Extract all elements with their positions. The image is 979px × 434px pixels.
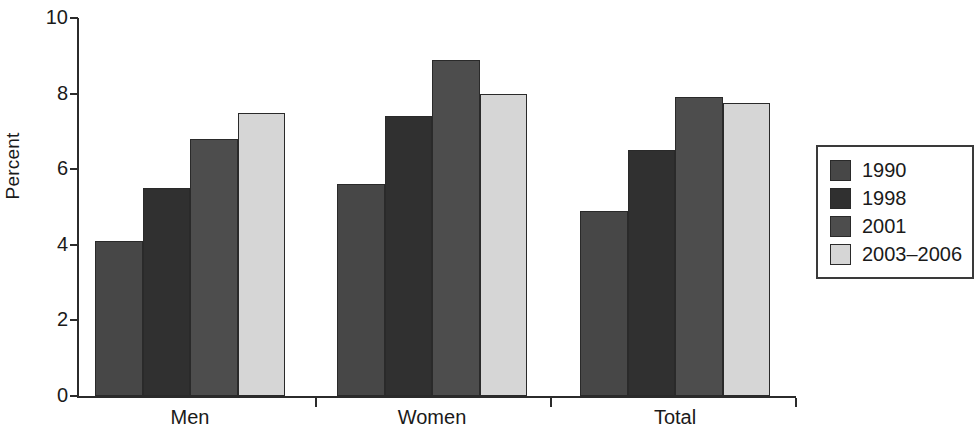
bar-men-1998 [143,188,191,396]
legend-item-2003–2006: 2003–2006 [830,240,962,268]
bar-women-1990 [337,184,385,396]
bar-women-1998 [385,116,433,396]
legend-swatch-icon-1998 [830,188,851,209]
x-group-label-men: Men [95,406,285,429]
x-group-label-total: Total [580,406,770,429]
bar-total-1998 [628,150,676,396]
legend-item-2001: 2001 [830,212,962,240]
legend-label-1990: 1990 [862,160,907,180]
bar-men-1990 [95,241,143,396]
legend-label-2001: 2001 [862,216,907,236]
bar-total-2003–2006 [723,103,771,396]
legend-label-1998: 1998 [862,188,907,208]
x-group-label-women: Women [337,406,527,429]
legend-label-2003–2006: 2003–2006 [862,244,962,264]
legend-swatch-icon-1990 [830,160,851,181]
bar-men-2001 [190,139,238,396]
bar-chart: Percent 0246810 MenWomenTotal 1990199820… [0,0,979,434]
legend-swatch-icon-2001 [830,216,851,237]
bar-women-2003–2006 [480,94,528,396]
legend-item-1998: 1998 [830,184,962,212]
bar-total-1990 [580,211,628,396]
bar-men-2003–2006 [238,113,286,397]
legend-swatch-icon-2003–2006 [830,244,851,265]
bar-total-2001 [675,97,723,396]
legend-item-1990: 1990 [830,156,962,184]
legend: 1990199820012003–2006 [816,145,974,279]
bar-women-2001 [432,60,480,396]
